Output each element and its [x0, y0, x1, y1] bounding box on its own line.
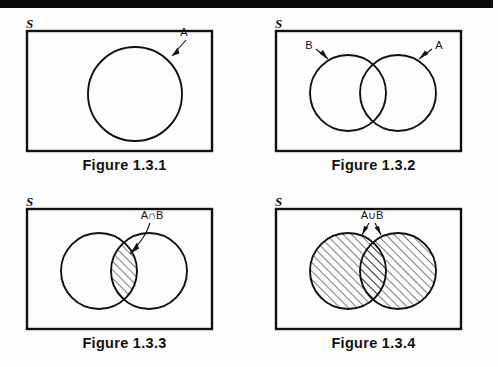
sample-space-rectangle [276, 31, 461, 151]
venn-diagram-single-set: S A [0, 14, 249, 159]
set-b-label: B [305, 39, 312, 51]
union-arrowhead-left [362, 226, 369, 235]
sample-space-label: S [26, 16, 33, 31]
intersection-label: A∩B [141, 209, 164, 221]
union-arrowhead-right [375, 226, 382, 235]
top-black-rule [0, 0, 493, 8]
set-a-circle [360, 55, 436, 131]
union-label: A∪B [361, 209, 384, 221]
sample-space-label: S [275, 16, 282, 31]
set-a-arrowhead [419, 51, 429, 60]
figure-panel-1-3-1: S A Figure 1.3.1 [0, 14, 249, 189]
sample-space-label: S [275, 194, 282, 209]
venn-diagram-two-sets: S B A [249, 14, 498, 159]
figure-panel-1-3-2: S B A Figure 1.3.2 [249, 14, 498, 189]
figure-caption: Figure 1.3.1 [0, 157, 249, 173]
set-b-circle [310, 55, 386, 131]
figure-caption: Figure 1.3.2 [249, 157, 498, 173]
figure-caption: Figure 1.3.4 [249, 335, 498, 351]
set-a-circle [88, 47, 182, 141]
union-hatched-region [310, 233, 436, 309]
figure-caption: Figure 1.3.3 [0, 335, 249, 351]
set-a-label: A [435, 39, 443, 51]
set-a-label: A [180, 26, 188, 38]
venn-diagram-union: S A∪B [249, 192, 498, 337]
figure-panel-1-3-3: S A∩B Figure 1.3.3 [0, 192, 249, 367]
venn-diagram-intersection: S A∩B [0, 192, 249, 337]
set-b-arrowhead [320, 50, 329, 59]
figure-panel-1-3-4: S A∪B Figure 1.3.4 [249, 192, 498, 367]
sample-space-label: S [26, 194, 33, 209]
